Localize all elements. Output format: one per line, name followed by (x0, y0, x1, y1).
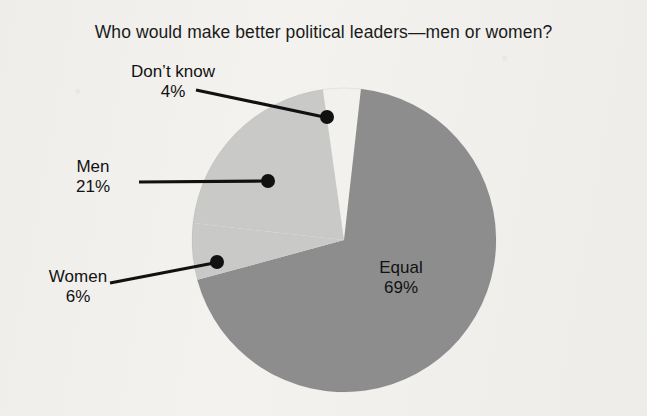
slice-label-women-name: Women (26, 267, 130, 287)
pie-sector-men[interactable] (193, 89, 344, 240)
slice-label-equal-name: Equal (355, 258, 447, 278)
pie-chart-graphic (0, 0, 647, 416)
slice-label-equal: Equal 69% (355, 258, 447, 298)
slice-label-women-value: 6% (26, 287, 130, 307)
leader-dot-dontknow (322, 112, 333, 123)
pie-sectors (192, 88, 496, 392)
slice-label-dontknow-value: 4% (113, 82, 233, 102)
slice-label-equal-value: 69% (355, 278, 447, 298)
slice-label-women: Women 6% (26, 267, 130, 307)
leader-line-men (139, 181, 265, 182)
slice-label-men-value: 21% (50, 177, 136, 197)
leader-dot-women (212, 257, 223, 268)
slice-label-dontknow: Don’t know 4% (113, 62, 233, 102)
slice-label-dontknow-name: Don’t know (113, 62, 233, 82)
chart-canvas: Who would make better political leaders—… (0, 0, 647, 416)
slice-label-men-name: Men (50, 157, 136, 177)
slice-label-men: Men 21% (50, 157, 136, 197)
leader-dot-men (263, 176, 274, 187)
